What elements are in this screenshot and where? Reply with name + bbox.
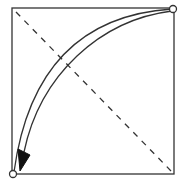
fold-diagram	[0, 0, 185, 183]
corner-marker-bottom-left	[10, 171, 17, 178]
arrow-head-icon	[18, 149, 30, 171]
diagonal-valley-fold-line	[16, 12, 173, 173]
corner-marker-top-right	[170, 6, 177, 13]
